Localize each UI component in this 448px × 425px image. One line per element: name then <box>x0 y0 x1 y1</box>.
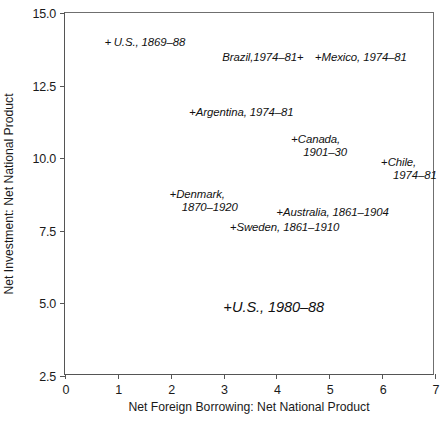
x-tick-label: 3 <box>221 383 228 397</box>
x-tick: 6 <box>382 374 383 379</box>
y-tick-label: 15.0 <box>32 7 56 21</box>
data-point-label-line2: 1901–30 <box>291 146 347 159</box>
plus-marker-icon: + <box>381 157 388 169</box>
data-point-label: Sweden, 1861–1910 <box>236 221 339 233</box>
y-tick: 12.5 <box>60 86 65 87</box>
x-tick-label: 0 <box>63 383 70 397</box>
x-tick: 7 <box>435 374 436 379</box>
x-tick: 0 <box>65 374 66 379</box>
x-tick: 5 <box>329 374 330 379</box>
scatter-plot-figure: 15.012.510.07.55.02.5 01234567 +U.S., 18… <box>0 0 448 425</box>
data-point-label: Argentina, 1974–81 <box>196 105 294 117</box>
x-tick-label: 4 <box>274 383 281 397</box>
data-point-label: Australia, 1861–1904 <box>283 205 389 217</box>
data-point-label: Mexico, 1974–81 <box>322 50 407 62</box>
data-point-us-1869-88: +U.S., 1869–88 <box>105 36 186 49</box>
data-point-mexico-1974-81: +Mexico, 1974–81 <box>315 50 407 63</box>
x-tick-label: 1 <box>115 383 122 397</box>
y-tick-label: 2.5 <box>39 370 56 384</box>
x-tick: 4 <box>276 374 277 379</box>
y-tick-label: 12.5 <box>32 80 56 94</box>
y-tick-label: 5.0 <box>39 297 56 311</box>
y-axis-title: Net Investment: Net National Product <box>0 12 18 375</box>
data-point-brazil-1974-81: Brazil,1974–81+ <box>222 50 306 63</box>
data-point-label: Canada,1901–30 <box>291 133 347 158</box>
x-tick-label: 2 <box>168 383 175 397</box>
data-point-label: Denmark,1870–1920 <box>170 189 238 214</box>
data-point-argentina-1974-81: +Argentina, 1974–81 <box>189 105 293 118</box>
plot-area: 15.012.510.07.55.02.5 01234567 +U.S., 18… <box>64 12 434 375</box>
data-point-denmark-1870-1920: +Denmark,1870–1920 <box>170 189 238 214</box>
data-point-label: U.S., 1869–88 <box>114 36 186 48</box>
plus-marker-icon: + <box>297 50 306 62</box>
data-point-canada-1901-30: +Canada,1901–30 <box>291 133 347 158</box>
x-tick-label: 7 <box>433 383 440 397</box>
plus-marker-icon: + <box>291 133 298 145</box>
y-tick-label: 10.0 <box>32 152 56 166</box>
data-point-label: U.S., 1980–88 <box>232 299 324 315</box>
x-tick: 2 <box>171 374 172 379</box>
data-point-label-line2: 1974–81 <box>381 169 437 182</box>
x-tick-label: 5 <box>327 383 334 397</box>
data-point-sweden-1861-1910: +Sweden, 1861–1910 <box>230 221 339 234</box>
plus-marker-icon: + <box>105 36 114 48</box>
y-axis-title-text: Net Investment: Net National Product <box>2 93 16 294</box>
data-point-us-1980-88: +U.S., 1980–88 <box>224 299 324 315</box>
x-tick-label: 6 <box>380 383 387 397</box>
data-point-chile-1974-81: +Chile,1974–81 <box>381 157 437 182</box>
y-tick: 7.5 <box>60 231 65 232</box>
data-point-label: Chile,1974–81 <box>381 157 437 182</box>
y-tick: 10.0 <box>60 158 65 159</box>
x-axis-title: Net Foreign Borrowing: Net National Prod… <box>64 400 434 414</box>
x-tick: 1 <box>118 374 119 379</box>
y-tick-label: 7.5 <box>39 225 56 239</box>
y-tick: 15.0 <box>60 13 65 14</box>
data-point-label-line2: 1870–1920 <box>170 201 238 214</box>
y-tick: 5.0 <box>60 303 65 304</box>
data-point-australia-1861-1904: +Australia, 1861–1904 <box>276 205 388 218</box>
plus-marker-icon: + <box>170 189 177 201</box>
x-tick: 3 <box>224 374 225 379</box>
data-point-label: Brazil,1974–81 <box>222 50 297 62</box>
